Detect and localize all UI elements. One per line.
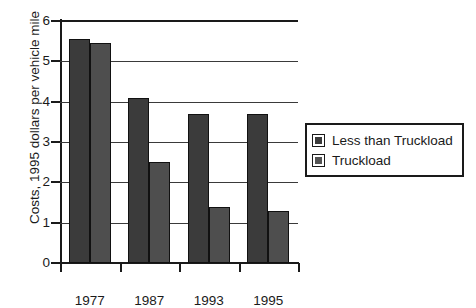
x-tick-label: 1977	[60, 293, 120, 308]
bar	[69, 39, 90, 263]
bar	[90, 43, 111, 263]
y-tick	[51, 141, 60, 143]
x-tick-label: 1995	[238, 293, 298, 308]
bar	[188, 114, 209, 263]
legend-item-label: Less than Truckload	[332, 133, 453, 148]
plot-area: 0123456 1977198719931995	[60, 21, 298, 263]
y-tick	[51, 262, 60, 264]
y-tick	[51, 222, 60, 224]
legend-item-less-than-truckload: Less than Truckload	[313, 130, 453, 150]
bar	[128, 98, 149, 263]
y-tick	[51, 60, 60, 62]
y-tick	[51, 181, 60, 183]
gridline	[60, 20, 298, 22]
legend-item-truckload: Truckload	[313, 150, 453, 170]
y-tick-label: 0	[26, 256, 50, 270]
y-tick-label: 3	[26, 135, 50, 149]
x-tick-label: 1993	[179, 293, 239, 308]
legend: Less than Truckload Truckload	[305, 123, 464, 177]
legend-swatch-icon	[313, 135, 324, 146]
y-tick	[51, 101, 60, 103]
y-tick-label: 1	[26, 216, 50, 230]
x-tick	[120, 263, 122, 272]
x-tick-label: 1987	[119, 293, 179, 308]
y-tick-label: 2	[26, 175, 50, 189]
bar	[149, 162, 170, 263]
bar	[268, 211, 289, 263]
y-tick-label: 6	[26, 14, 50, 28]
x-tick	[60, 263, 62, 272]
y-axis-title: Costs, 1995 dollars per vehicle mile	[27, 0, 42, 248]
bar	[247, 114, 268, 263]
x-tick	[298, 263, 300, 272]
legend-item-label: Truckload	[332, 153, 391, 168]
y-tick-label: 4	[26, 95, 50, 109]
y-tick	[51, 20, 60, 22]
legend-swatch-icon	[313, 155, 324, 166]
x-tick	[239, 263, 241, 272]
y-tick-label: 5	[26, 54, 50, 68]
bar	[209, 207, 230, 263]
x-tick	[179, 263, 181, 272]
